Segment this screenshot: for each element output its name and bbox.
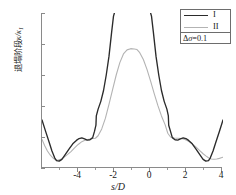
x-minor-tick xyxy=(131,168,132,170)
y-axis-label-subscript: 1 xyxy=(18,27,24,30)
x-tick-label: 4 xyxy=(206,170,236,180)
legend-swatch-II xyxy=(184,27,208,28)
legend-item-I: I xyxy=(181,10,230,20)
legend-note-value: =0.1 xyxy=(192,34,207,43)
figure: 0.5 0.4 0.3 0.2 0.1 0.0 退塌阶段κ/κ1 -4 -2 0… xyxy=(0,0,236,195)
x-minor-tick xyxy=(95,168,96,170)
x-tick-label: -4 xyxy=(62,170,92,180)
legend-note: Δσ=0.1 xyxy=(183,33,207,44)
x-minor-tick xyxy=(203,168,204,170)
x-minor-tick xyxy=(167,168,168,170)
y-axis-label-kappa: κ/κ xyxy=(14,30,23,40)
x-tick-label: 2 xyxy=(170,170,200,180)
y-axis-label-chars: 退塌阶段 xyxy=(14,40,23,72)
y-tick-mark xyxy=(41,168,45,169)
legend-swatch-I xyxy=(184,15,208,16)
legend-label-II: II xyxy=(213,21,219,32)
series-line-II xyxy=(42,49,223,161)
x-tick-label: 0 xyxy=(134,170,164,180)
legend-item-II: II xyxy=(181,22,230,32)
legend: I II Δσ=0.1 xyxy=(180,9,231,44)
x-axis-label: s/D xyxy=(0,181,236,192)
legend-label-I: I xyxy=(213,9,216,20)
x-minor-tick xyxy=(59,168,60,170)
x-tick-label: -2 xyxy=(98,170,128,180)
y-axis-label: 退塌阶段κ/κ1 xyxy=(14,2,25,98)
